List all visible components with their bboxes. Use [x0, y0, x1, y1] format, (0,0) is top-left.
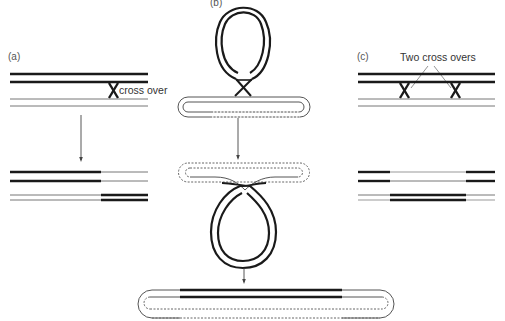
- crossover-annotation: cross over: [119, 84, 168, 96]
- crossover-x: [451, 83, 460, 98]
- arrow-down-icon: [236, 118, 240, 160]
- recombination-diagram: (a) cross over (b): [0, 0, 505, 321]
- recombinant-molecule: [138, 290, 394, 318]
- panel-a: (a) cross over: [8, 51, 168, 200]
- crossover-x: [109, 83, 118, 98]
- annotation-leader-line: [411, 66, 428, 88]
- dashed-loop: [179, 163, 310, 182]
- panel-c-label: (c): [357, 51, 369, 62]
- two-crossovers-annotation: Two cross overs: [400, 51, 476, 63]
- arrow-down-icon: [79, 115, 83, 162]
- crossover-x: [400, 83, 409, 98]
- integrated-loop: [211, 183, 276, 268]
- panel-b-label: (b): [210, 0, 222, 8]
- circular-molecule: [216, 8, 270, 79]
- panel-c: (c) Two cross overs: [357, 51, 495, 200]
- annotation-leader-line: [434, 66, 451, 88]
- arrow-down-icon: [242, 268, 246, 284]
- crossing-strands: [190, 177, 298, 190]
- linear-molecule-loop: [178, 97, 310, 117]
- crossover-x: [235, 79, 252, 96]
- panel-a-label: (a): [8, 51, 20, 62]
- panel-b: (b): [138, 0, 394, 318]
